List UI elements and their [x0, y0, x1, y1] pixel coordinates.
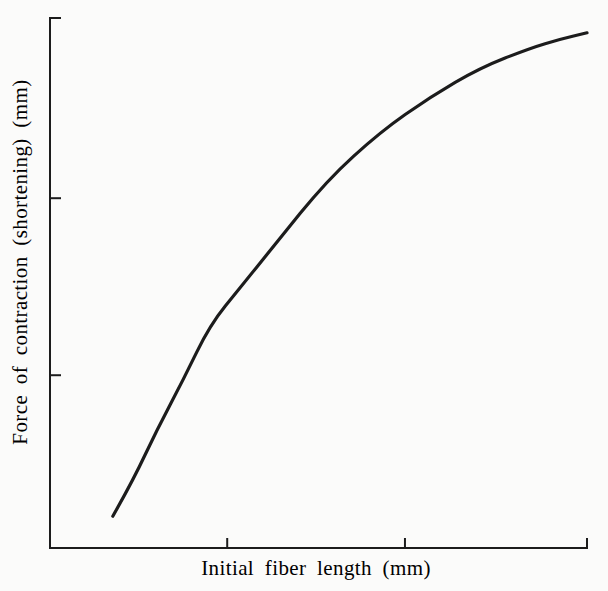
x-axis-label: Initial fiber length (mm)	[201, 556, 431, 581]
y-axis-label: Force of contraction (shortening) (mm)	[8, 79, 33, 444]
plot-area	[0, 0, 608, 591]
length-tension-figure: Force of contraction (shortening) (mm) I…	[0, 0, 608, 591]
force-length-curve	[113, 33, 587, 516]
